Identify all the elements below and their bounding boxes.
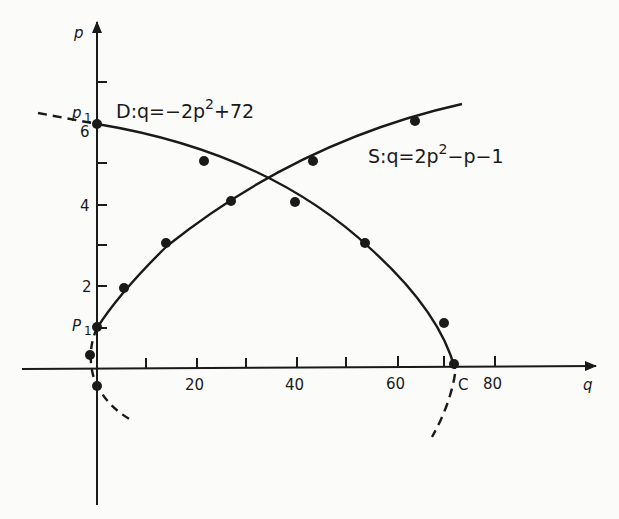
demand-curve-dashed-bottom	[432, 374, 455, 437]
x-tick-40: 40	[285, 376, 304, 394]
p1-lower-label: P 1	[72, 317, 92, 338]
supply-equation-label: S:q=2p2−p−1	[368, 141, 504, 167]
supply-demand-chart: 20 40 60 80 2 4 6 p q p 1 P 1 C	[0, 0, 619, 519]
x-axis	[22, 366, 596, 369]
x-tick-20: 20	[185, 376, 204, 394]
y-ticks	[97, 82, 107, 328]
supply-curve-solid	[97, 104, 462, 328]
svg-text:1: 1	[84, 324, 92, 338]
x-axis-label: q	[583, 376, 593, 394]
y-axis-label: p	[73, 24, 84, 42]
x-tick-60: 60	[386, 375, 405, 393]
y-tick-2: 2	[82, 278, 92, 296]
tick-labels: 20 40 60 80 2 4 6	[80, 123, 502, 394]
axes	[22, 22, 596, 505]
y-tick-4: 4	[80, 197, 90, 215]
demand-equation-label: D:q=−2p2+72	[116, 96, 254, 122]
point-c-label: C	[458, 376, 468, 394]
x-tick-80: 80	[483, 375, 502, 393]
svg-text:P: P	[72, 317, 82, 335]
y-tick-6: 6	[80, 123, 90, 141]
